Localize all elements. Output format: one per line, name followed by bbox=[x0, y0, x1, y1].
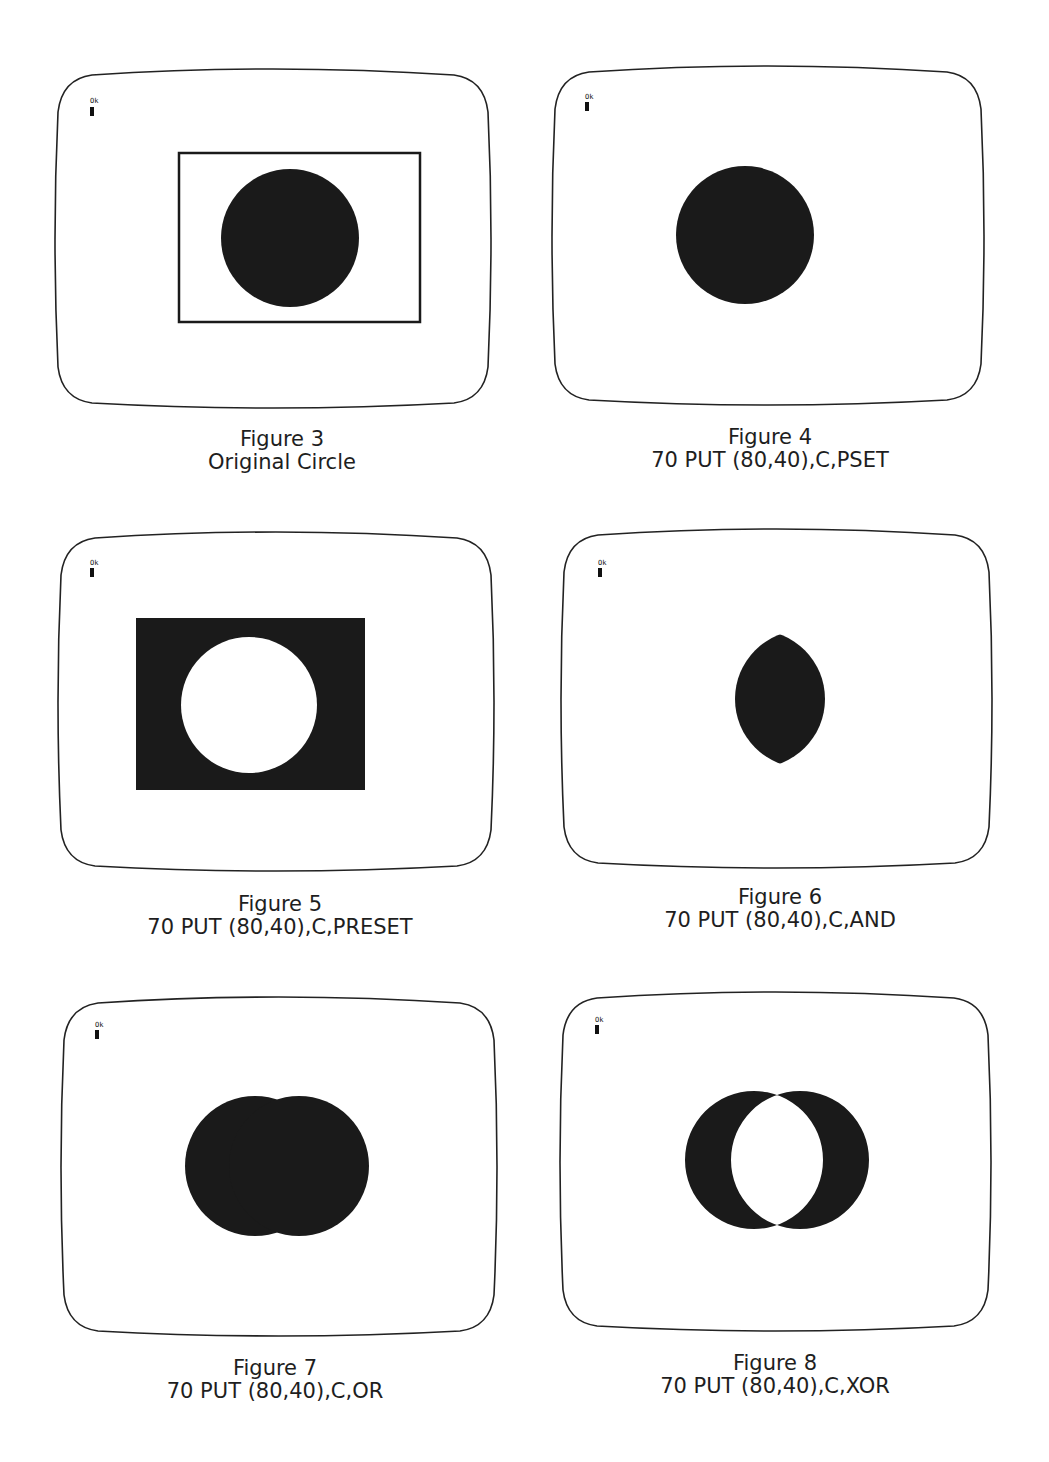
figure-caption: Figure 6 70 PUT (80,40),C,AND bbox=[625, 886, 935, 932]
graphic-drawing bbox=[557, 990, 994, 1335]
figure-subtitle: 70 PUT (80,40),C,XOR bbox=[625, 1375, 925, 1398]
graphic-drawing bbox=[549, 64, 987, 409]
right-circle bbox=[229, 1096, 369, 1236]
crt-screen: Ok bbox=[558, 527, 995, 872]
filled-circle bbox=[221, 169, 359, 307]
crt-screen: Ok bbox=[52, 67, 494, 412]
crt-screen: Ok bbox=[549, 64, 987, 409]
figure-caption: Figure 7 70 PUT (80,40),C,OR bbox=[125, 1357, 425, 1403]
figure-subtitle: 70 PUT (80,40),C,OR bbox=[125, 1380, 425, 1403]
intersection-lens bbox=[687, 630, 825, 768]
filled-circle bbox=[676, 166, 814, 304]
crt-screen: Ok bbox=[55, 530, 497, 875]
figure-caption: Figure 8 70 PUT (80,40),C,XOR bbox=[625, 1352, 925, 1398]
crt-screen: Ok bbox=[58, 995, 500, 1340]
figure-subtitle: Original Circle bbox=[172, 451, 392, 474]
figure-number: Figure 4 bbox=[620, 426, 920, 449]
xor-crescents bbox=[685, 1091, 869, 1229]
figure-number: Figure 7 bbox=[125, 1357, 425, 1380]
figure-subtitle: 70 PUT (80,40),C,PSET bbox=[620, 449, 920, 472]
figure-number: Figure 6 bbox=[625, 886, 935, 909]
crt-screen: Ok bbox=[557, 990, 994, 1335]
figure-caption: Figure 5 70 PUT (80,40),C,PRESET bbox=[120, 893, 440, 939]
figure-caption: Figure 3 Original Circle bbox=[172, 428, 392, 474]
figure-caption: Figure 4 70 PUT (80,40),C,PSET bbox=[620, 426, 920, 472]
graphic-drawing bbox=[58, 995, 500, 1340]
figure-number: Figure 3 bbox=[172, 428, 392, 451]
figure-subtitle: 70 PUT (80,40),C,PRESET bbox=[120, 916, 440, 939]
graphic-drawing bbox=[55, 530, 497, 875]
graphic-drawing bbox=[558, 527, 995, 872]
figure-number: Figure 5 bbox=[120, 893, 440, 916]
figure-number: Figure 8 bbox=[625, 1352, 925, 1375]
graphic-drawing bbox=[52, 67, 494, 412]
figure-subtitle: 70 PUT (80,40),C,AND bbox=[625, 909, 935, 932]
inverted-circle bbox=[181, 637, 317, 773]
